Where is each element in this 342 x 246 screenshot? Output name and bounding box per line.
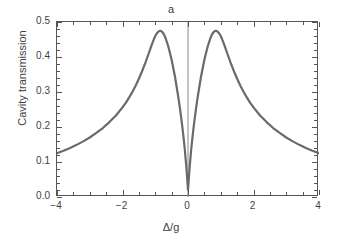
x-tick-minor-top [221,22,222,25]
y-tick-minor-right [314,183,317,184]
y-tick-minor-right [314,50,317,51]
x-tick-minor [270,192,271,195]
y-tick-minor-right [314,85,317,86]
x-tick-minor-top [237,22,238,25]
y-tick-minor [57,99,60,100]
y-tick-label: 0.5 [14,15,50,27]
y-tick-minor [57,85,60,86]
x-tick-major [123,190,124,195]
y-tick-minor [57,190,60,191]
x-tick-major [319,190,320,195]
y-tick-minor [57,71,60,72]
y-tick-minor [57,120,60,121]
y-tick-major-right [312,57,317,58]
x-tick-minor [221,192,222,195]
x-tick-major-top [188,22,189,27]
x-tick-minor-top [286,22,287,25]
x-tick-minor [90,192,91,195]
y-tick-minor-right [314,176,317,177]
y-tick-minor [57,169,60,170]
y-tick-minor-right [314,148,317,149]
y-tick-minor [57,43,60,44]
y-tick-label: 0.4 [14,50,50,62]
x-tick-minor [139,192,140,195]
x-tick-minor [204,192,205,195]
x-tick-minor [303,192,304,195]
y-tick-minor [57,50,60,51]
y-tick-major-right [312,22,317,23]
y-tick-minor-right [314,190,317,191]
x-tick-minor-top [270,22,271,25]
y-tick-major [57,57,62,58]
x-tick-major-top [319,22,320,27]
y-tick-label: 0.2 [14,120,50,132]
y-tick-minor [57,134,60,135]
y-tick-major-right [312,197,317,198]
x-tick-minor [155,192,156,195]
x-tick-minor [73,192,74,195]
y-tick-minor [57,155,60,156]
y-tick-major [57,22,62,23]
y-tick-minor-right [314,169,317,170]
x-axis-title: Δ/g [0,220,342,234]
y-tick-minor [57,29,60,30]
y-tick-minor-right [314,78,317,79]
x-tick-minor-top [73,22,74,25]
y-tick-major-right [312,92,317,93]
y-tick-minor-right [314,155,317,156]
x-tick-label: 0 [167,200,207,212]
x-tick-minor-top [204,22,205,25]
x-tick-major-top [123,22,124,27]
y-tick-minor-right [314,64,317,65]
x-tick-major [254,190,255,195]
x-tick-label: 2 [233,200,273,212]
y-tick-minor-right [314,71,317,72]
y-tick-minor-right [314,106,317,107]
x-tick-minor [237,192,238,195]
x-tick-label: −2 [102,200,142,212]
x-tick-major [188,190,189,195]
figure-panel: a Cavity transmission Δ/g −4−20240.00.10… [0,0,342,246]
y-tick-minor-right [314,120,317,121]
y-tick-minor [57,78,60,79]
plot-area [56,21,318,196]
y-tick-minor-right [314,141,317,142]
y-tick-label: 0.3 [14,85,50,97]
y-axis-title-wrap: Cavity transmission [2,21,18,196]
x-tick-minor-top [90,22,91,25]
y-tick-minor [57,141,60,142]
x-tick-minor [106,192,107,195]
y-tick-minor [57,183,60,184]
x-tick-minor-top [139,22,140,25]
x-tick-minor-top [106,22,107,25]
y-tick-minor [57,106,60,107]
y-tick-minor [57,36,60,37]
x-tick-major-top [254,22,255,27]
y-tick-minor [57,176,60,177]
y-tick-major [57,92,62,93]
x-tick-minor-top [303,22,304,25]
x-tick-label: 4 [298,200,338,212]
plot-canvas [57,22,319,197]
y-tick-minor-right [314,29,317,30]
x-tick-minor [286,192,287,195]
y-tick-label: 0.1 [14,155,50,167]
y-tick-major-right [312,127,317,128]
y-tick-minor-right [314,113,317,114]
x-tick-minor-top [155,22,156,25]
y-tick-minor-right [314,99,317,100]
y-tick-minor-right [314,43,317,44]
y-tick-minor [57,113,60,114]
x-tick-minor [172,192,173,195]
y-tick-minor [57,148,60,149]
y-tick-minor-right [314,134,317,135]
y-tick-label: 0.0 [14,190,50,202]
y-tick-major-right [312,162,317,163]
x-tick-minor-top [172,22,173,25]
y-tick-major [57,197,62,198]
y-tick-major [57,127,62,128]
y-tick-minor [57,64,60,65]
panel-label: a [0,2,342,16]
y-tick-major [57,162,62,163]
y-tick-minor-right [314,36,317,37]
